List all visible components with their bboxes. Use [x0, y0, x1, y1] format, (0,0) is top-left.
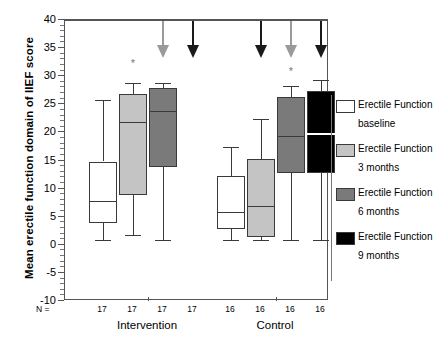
whisker-upper: [321, 80, 322, 91]
legend-label-line2: 9 months: [358, 250, 399, 261]
whisker-cap-lower: [125, 235, 141, 236]
n-value: 17: [157, 304, 166, 314]
whisker-cap-lower: [313, 240, 329, 241]
y-tick-label: 30: [30, 69, 56, 81]
n-value: 17: [97, 304, 106, 314]
whisker-cap-upper: [283, 86, 299, 87]
whisker-upper: [103, 100, 104, 162]
whisker-upper: [261, 119, 262, 158]
whisker-cap-lower: [95, 240, 111, 241]
arrow-head: [255, 45, 267, 58]
n-value: 17: [187, 304, 196, 314]
y-tick-label: 20: [30, 125, 56, 137]
legend-label-line2: baseline: [358, 118, 395, 129]
median-line: [89, 201, 117, 202]
arrow-stem: [162, 21, 164, 47]
y-tick-label: 0: [30, 238, 56, 250]
legend-swatch: [336, 144, 355, 157]
x-tick: [276, 297, 277, 301]
legend-swatch: [336, 232, 355, 245]
legend-label-line1: Erectile Function: [358, 99, 432, 110]
whisker-cap-lower: [253, 240, 269, 241]
legend-label-line1: Erectile Function: [358, 187, 432, 198]
legend-swatch: [336, 100, 355, 113]
arrow-head: [157, 45, 169, 58]
y-tick-mark: [58, 300, 64, 301]
down-arrow-annotation: [253, 21, 269, 63]
box-iqr: [149, 88, 177, 167]
legend-label-line1: Erectile Function: [358, 231, 432, 242]
significance-asterisk: *: [131, 58, 135, 69]
y-tick-label: 40: [30, 13, 56, 25]
whisker-lower: [291, 173, 292, 240]
whisker-lower: [103, 223, 104, 240]
n-prefix-label: N =: [36, 304, 49, 314]
y-tick-label: -5: [30, 266, 56, 278]
arrow-head: [285, 45, 297, 58]
whisker-cap-upper: [155, 83, 171, 84]
legend-swatch: [336, 188, 355, 201]
whisker-cap-lower: [283, 240, 299, 241]
n-value: 17: [127, 304, 136, 314]
y-tick-label: 35: [30, 41, 56, 53]
median-line: [247, 206, 275, 207]
y-tick-label: 10: [30, 182, 56, 194]
legend-item: Erectile Function9 months: [336, 231, 448, 275]
down-arrow-annotation: [185, 21, 201, 63]
whisker-upper: [291, 86, 292, 97]
n-value: 16: [315, 304, 324, 314]
arrow-stem: [192, 21, 194, 47]
whisker-lower: [231, 229, 232, 240]
whisker-cap-upper: [253, 119, 269, 120]
whisker-cap-upper: [125, 83, 141, 84]
arrow-head: [315, 45, 327, 58]
group-label: Intervention: [117, 319, 177, 331]
legend-label-line2: 6 months: [358, 206, 399, 217]
whisker-upper: [133, 83, 134, 94]
n-value: 16: [285, 304, 294, 314]
median-line: [217, 212, 245, 213]
arrow-stem: [260, 21, 262, 47]
legend: Erectile FunctionbaselineErectile Functi…: [336, 99, 448, 276]
x-tick: [148, 297, 149, 301]
y-tick-label: 5: [30, 210, 56, 222]
median-line: [277, 136, 305, 137]
down-arrow-annotation: [155, 21, 171, 63]
median-line: [149, 111, 177, 112]
down-arrow-annotation: [283, 21, 299, 63]
y-tick-label: 25: [30, 97, 56, 109]
n-value: 16: [225, 304, 234, 314]
significance-asterisk: *: [289, 66, 293, 77]
boxplot-figure: Mean erectile function domain of IIEF sc…: [0, 0, 448, 347]
legend-label-line2: 3 months: [358, 162, 399, 173]
whisker-cap-lower: [155, 240, 171, 241]
box-iqr: [247, 159, 275, 238]
plot-area: **: [64, 19, 328, 300]
group-label: Control: [256, 319, 293, 331]
box-iqr: [119, 94, 147, 195]
box-iqr: [277, 97, 305, 173]
legend-divider: [331, 95, 332, 281]
legend-item: Erectile Function6 months: [336, 187, 448, 231]
box-iqr: [217, 176, 245, 229]
n-value: 16: [255, 304, 264, 314]
whisker-cap-upper: [313, 80, 329, 81]
whisker-cap-lower: [223, 240, 239, 241]
whisker-lower: [133, 195, 134, 234]
y-tick-label: 15: [30, 154, 56, 166]
legend-label-line1: Erectile Function: [358, 143, 432, 154]
down-arrow-annotation: [313, 21, 329, 63]
arrow-stem: [320, 21, 322, 47]
arrow-head: [187, 45, 199, 58]
arrow-stem: [290, 21, 292, 47]
whisker-cap-upper: [95, 100, 111, 101]
whisker-cap-upper: [223, 147, 239, 148]
box-iqr: [89, 162, 117, 224]
whisker-lower: [163, 167, 164, 240]
whisker-lower: [321, 173, 322, 240]
legend-item: Erectile Functionbaseline: [336, 99, 448, 143]
legend-item: Erectile Function3 months: [336, 143, 448, 187]
whisker-upper: [231, 147, 232, 175]
median-line: [119, 122, 147, 123]
